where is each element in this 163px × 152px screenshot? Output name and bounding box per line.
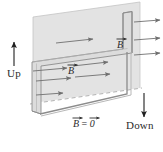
b-symbol-zero: B (73, 118, 79, 129)
physics-figure: Up Down B B B = 0 (0, 0, 163, 152)
b-field-label-upper: B (117, 40, 123, 50)
b-field-label-middle: B (68, 66, 74, 76)
zero-symbol: 0 (90, 118, 95, 129)
down-label: Down (126, 120, 154, 131)
b-zero-label: B = 0 (73, 119, 95, 129)
b-symbol-middle: B (68, 65, 74, 76)
b-vector-upper: B (117, 40, 123, 50)
up-label: Up (7, 68, 21, 79)
b-vector-zero-lhs: B (73, 119, 79, 129)
b-symbol-upper: B (117, 39, 123, 50)
b-vector-middle: B (68, 66, 74, 76)
zero-vector-rhs: 0 (90, 119, 95, 129)
